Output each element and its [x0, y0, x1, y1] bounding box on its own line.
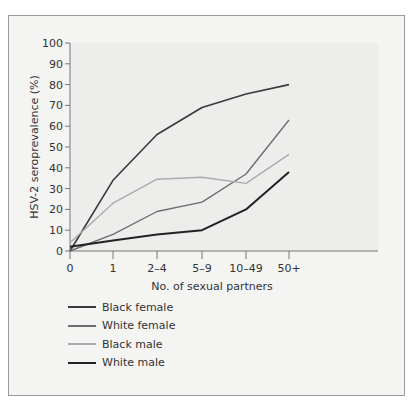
y-tick-label: 40 [49, 162, 63, 175]
y-tick-label: 50 [49, 141, 63, 154]
legend-label: Black male [102, 338, 163, 351]
y-tick-label: 90 [49, 58, 63, 71]
legend-swatch [68, 343, 96, 345]
series-black-female [70, 85, 289, 251]
y-tick-label: 100 [42, 37, 63, 50]
y-axis-label: HSV-2 seroprevalence (%) [28, 75, 41, 219]
legend-item-white-male: White male [68, 354, 175, 373]
y-tick-label: 80 [49, 79, 63, 92]
legend-item-black-female: Black female [68, 298, 175, 317]
legend-label: Black female [102, 301, 173, 314]
y-tick-label: 30 [49, 183, 63, 196]
y-tick-label: 10 [49, 224, 63, 237]
legend-swatch [68, 362, 96, 364]
y-tick-label: 70 [49, 99, 63, 112]
x-tick-label: 10–49 [229, 262, 263, 275]
y-tick-label: 20 [49, 203, 63, 216]
line-chart: 0102030405060708090100012–45–910–4950+ H… [0, 0, 417, 403]
series-lines [70, 85, 289, 251]
axes: 0102030405060708090100012–45–910–4950+ [42, 37, 378, 275]
legend-swatch [68, 306, 96, 308]
x-tick-label: 0 [67, 262, 74, 275]
y-tick-label: 60 [49, 120, 63, 133]
legend-item-black-male: Black male [68, 335, 175, 354]
x-tick-label: 5–9 [192, 262, 212, 275]
x-axis-label: No. of sexual partners [151, 280, 273, 293]
legend-swatch [68, 325, 96, 327]
legend-label: White female [102, 319, 175, 332]
legend: Black female White female Black male Whi… [68, 298, 175, 372]
x-tick-label: 50+ [277, 262, 300, 275]
legend-item-white-female: White female [68, 317, 175, 336]
series-white-male [70, 172, 289, 247]
y-tick-label: 0 [56, 245, 63, 258]
x-tick-label: 2–4 [147, 262, 167, 275]
legend-label: White male [102, 356, 165, 369]
x-tick-label: 1 [110, 262, 117, 275]
